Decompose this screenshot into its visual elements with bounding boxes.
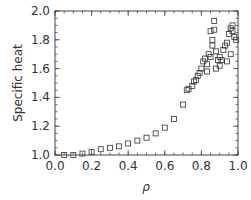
data-point bbox=[225, 59, 230, 64]
x-tick-label: 0.2 bbox=[82, 159, 101, 173]
plot-frame bbox=[55, 11, 238, 155]
data-point bbox=[171, 117, 176, 122]
data-point bbox=[135, 138, 140, 143]
plot-area bbox=[62, 19, 239, 158]
data-point bbox=[181, 102, 186, 107]
data-point bbox=[214, 49, 219, 54]
data-point bbox=[126, 141, 131, 146]
data-point bbox=[210, 43, 215, 48]
data-point bbox=[212, 19, 217, 24]
data-point bbox=[228, 52, 233, 57]
y-tick-label: 1.8 bbox=[31, 33, 50, 47]
y-tick-label: 2.0 bbox=[31, 4, 50, 18]
x-tick-label: 0.8 bbox=[192, 159, 211, 173]
x-tick-label: 1.0 bbox=[228, 159, 247, 173]
x-axis-label: ρ bbox=[142, 180, 150, 194]
x-tick-label: 0.6 bbox=[155, 159, 174, 173]
data-point bbox=[144, 135, 149, 140]
scatter-chart: 0.00.20.40.60.81.01.01.21.41.61.82.0 Spe… bbox=[0, 0, 251, 200]
axes: 0.00.20.40.60.81.01.01.21.41.61.82.0 bbox=[31, 4, 248, 173]
y-axis-label: Specific heat bbox=[11, 44, 25, 122]
y-tick-label: 1.0 bbox=[31, 148, 50, 162]
data-point bbox=[153, 131, 158, 136]
data-point bbox=[117, 144, 122, 149]
data-point bbox=[184, 88, 189, 93]
data-point bbox=[162, 125, 167, 130]
data-point bbox=[212, 27, 217, 32]
y-tick-label: 1.2 bbox=[31, 119, 50, 133]
y-tick-label: 1.6 bbox=[31, 62, 50, 76]
data-point bbox=[107, 145, 112, 150]
x-tick-label: 0.4 bbox=[119, 159, 138, 173]
data-point bbox=[208, 29, 213, 34]
data-point bbox=[204, 69, 209, 74]
data-point bbox=[210, 37, 215, 42]
data-point bbox=[98, 147, 103, 152]
y-tick-label: 1.4 bbox=[31, 90, 50, 104]
